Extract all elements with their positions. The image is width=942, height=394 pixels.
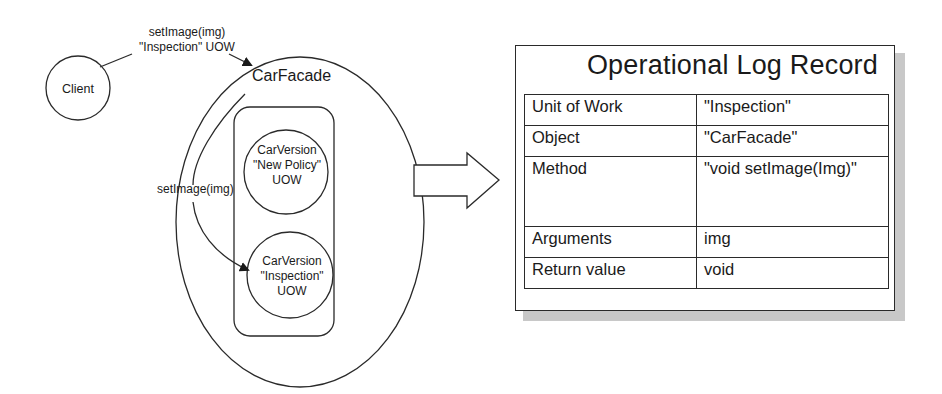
client-call-edge: setImage(img) "Inspection" UOW	[100, 25, 251, 67]
row-key: Return value	[525, 258, 697, 289]
car-version-new-policy-line1: CarVersion	[257, 143, 316, 157]
client-call-label-method: setImage(img)	[149, 25, 226, 39]
inner-call-arc-top	[193, 94, 245, 185]
car-version-new-policy-node: CarVersion "New Policy" UOW	[244, 130, 328, 214]
table-row: Arguments img	[525, 227, 889, 258]
car-version-inspection-line1: CarVersion	[262, 254, 321, 268]
inner-call-label: setImage(img)	[157, 182, 234, 196]
inner-call-arc-bottom	[193, 202, 248, 270]
table-row: Unit of Work "Inspection"	[525, 95, 889, 126]
table-row: Return value void	[525, 258, 889, 289]
client-call-label-uow: "Inspection" UOW	[139, 40, 236, 54]
client-call-arrow	[229, 54, 251, 65]
car-version-new-policy-line2: "New Policy"	[253, 158, 321, 172]
car-version-inspection-line3: UOW	[277, 284, 307, 298]
log-record-card: Operational Log Record Unit of Work "Ins…	[515, 45, 895, 311]
row-value: "CarFacade"	[697, 126, 889, 157]
row-key: Arguments	[525, 227, 697, 258]
row-value: void	[697, 258, 889, 289]
log-record-title: Operational Log Record	[516, 50, 878, 81]
row-key: Method	[525, 157, 697, 227]
log-record-table: Unit of Work "Inspection" Object "CarFac…	[524, 94, 889, 289]
table-row: Object "CarFacade"	[525, 126, 889, 157]
row-value: "Inspection"	[697, 95, 889, 126]
car-version-new-policy-line3: UOW	[272, 173, 302, 187]
row-key: Object	[525, 126, 697, 157]
hollow-right-arrow-icon	[414, 153, 499, 208]
car-facade-label: CarFacade	[252, 67, 331, 84]
row-value: "void setImage(Img)"	[697, 157, 889, 227]
row-value: img	[697, 227, 889, 258]
client-label: Client	[62, 82, 94, 96]
table-row: Method "void setImage(Img)"	[525, 157, 889, 227]
client-call-line	[100, 54, 132, 67]
car-version-inspection-node: CarVersion "Inspection" UOW	[247, 232, 333, 318]
car-version-inspection-line2: "Inspection"	[260, 269, 323, 283]
client-node: Client	[46, 56, 110, 120]
row-key: Unit of Work	[525, 95, 697, 126]
